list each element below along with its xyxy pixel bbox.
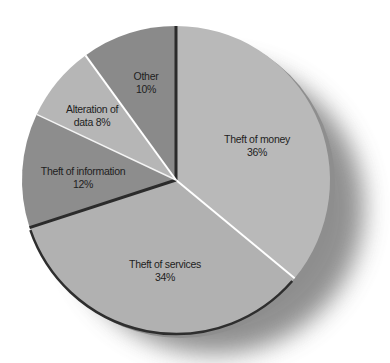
label-line1: Theft of money [224,133,290,146]
label-line2: data 8% [66,116,118,129]
label-line1: Theft of information [41,165,125,178]
label-theft-of-money: Theft of money 36% [224,133,290,159]
label-theft-of-information: Theft of information 12% [41,165,125,191]
label-line2: 10% [134,83,159,96]
label-other: Other 10% [134,70,159,96]
label-line2: 34% [129,271,201,284]
label-line1: Theft of services [129,258,201,271]
label-theft-of-services: Theft of services 34% [129,258,201,284]
label-line1: Alteration of [66,103,118,116]
label-line1: Other [134,70,159,83]
label-line2: 12% [41,178,125,191]
label-alteration-of-data: Alteration of data 8% [66,103,118,129]
label-line2: 36% [224,146,290,159]
